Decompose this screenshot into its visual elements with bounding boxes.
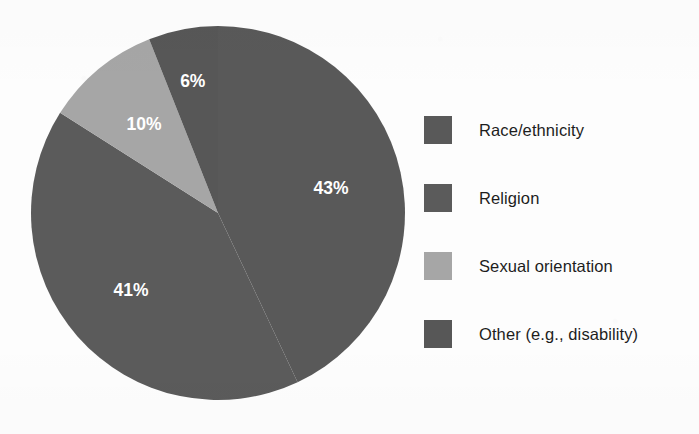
legend-swatch-sexual-orientation [424, 252, 452, 280]
legend-swatch-race-ethnicity [424, 116, 452, 144]
pie-chart-plot-area: 43%41%10%6% [31, 26, 405, 400]
pie-slice-value-label: 10% [127, 114, 162, 134]
pie-slice-value-label: 41% [113, 280, 148, 300]
pie-slice-value-label: 6% [180, 71, 206, 91]
legend-item-race-ethnicity[interactable]: Race/ethnicity [424, 96, 674, 164]
pie-svg: 43%41%10%6% [31, 26, 405, 400]
legend-label-sexual-orientation: Sexual orientation [479, 257, 613, 276]
pie-slice-group [31, 26, 405, 400]
legend-label-race-ethnicity: Race/ethnicity [479, 121, 584, 140]
legend-swatch-religion [424, 184, 452, 212]
pie-chart-figure: 43%41%10%6% Race/ethnicity Religion Sexu… [0, 0, 699, 434]
legend-label-other: Other (e.g., disability) [479, 325, 638, 344]
legend-label-religion: Religion [479, 189, 539, 208]
legend-item-other[interactable]: Other (e.g., disability) [424, 300, 674, 368]
legend-swatch-other [424, 320, 452, 348]
legend-item-sexual-orientation[interactable]: Sexual orientation [424, 232, 674, 300]
legend-item-religion[interactable]: Religion [424, 164, 674, 232]
chart-legend: Race/ethnicity Religion Sexual orientati… [424, 96, 674, 368]
pie-slice-value-label: 43% [314, 178, 349, 198]
